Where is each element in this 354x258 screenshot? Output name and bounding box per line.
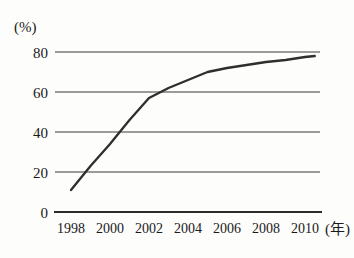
x-tick-label-2008: 2008 — [252, 221, 280, 236]
y-axis-unit-label: (%) — [14, 19, 37, 36]
y-tick-label-0: 0 — [41, 205, 49, 221]
x-tick-label-1998: 1998 — [57, 221, 85, 236]
x-tick-label-2006: 2006 — [213, 221, 241, 236]
y-tick-label-40: 40 — [33, 125, 48, 141]
y-tick-label-80: 80 — [33, 45, 48, 61]
x-tick-label-2000: 2000 — [96, 221, 124, 236]
x-tick-label-2002: 2002 — [135, 221, 163, 236]
x-axis-unit-label: (年) — [325, 221, 350, 238]
x-tick-label-2010: 2010 — [291, 221, 319, 236]
y-tick-label-20: 20 — [33, 165, 48, 181]
x-tick-label-2004: 2004 — [174, 221, 202, 236]
y-axis-tick-labels: 80 60 40 20 0 — [33, 45, 48, 221]
gridlines — [55, 52, 320, 172]
chart-figure: 80 60 40 20 0 (%) 1998 2000 2002 2004 20… — [0, 0, 354, 258]
data-series-line — [71, 56, 315, 190]
x-axis-tick-labels: 1998 2000 2002 2004 2006 2008 2010 — [57, 221, 319, 236]
line-chart: 80 60 40 20 0 (%) 1998 2000 2002 2004 20… — [0, 0, 354, 258]
y-tick-label-60: 60 — [33, 85, 48, 101]
